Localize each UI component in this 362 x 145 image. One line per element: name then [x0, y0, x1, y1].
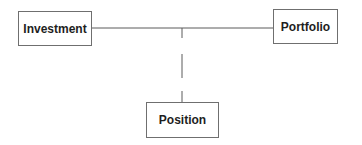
node-label: Portfolio [281, 20, 330, 34]
node-portfolio: Portfolio [273, 9, 338, 44]
node-label: Investment [23, 22, 86, 36]
node-position: Position [146, 102, 219, 138]
node-label: Position [159, 113, 206, 127]
node-investment: Investment [18, 11, 92, 46]
